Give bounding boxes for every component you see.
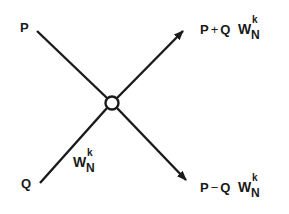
sum-output-label: P+Q WkN [200, 22, 251, 36]
p-input-line [37, 31, 107, 98]
input-label-q: Q [21, 177, 31, 190]
difference-output-arrow [117, 108, 186, 180]
difference-output-label: P−Q WkN [200, 180, 251, 194]
summing-node-icon [106, 97, 119, 110]
input-label-p: P [20, 21, 29, 34]
twiddle-factor-label: WkN [73, 155, 86, 169]
q-input-line [40, 108, 107, 183]
sum-output-arrow [117, 31, 183, 98]
